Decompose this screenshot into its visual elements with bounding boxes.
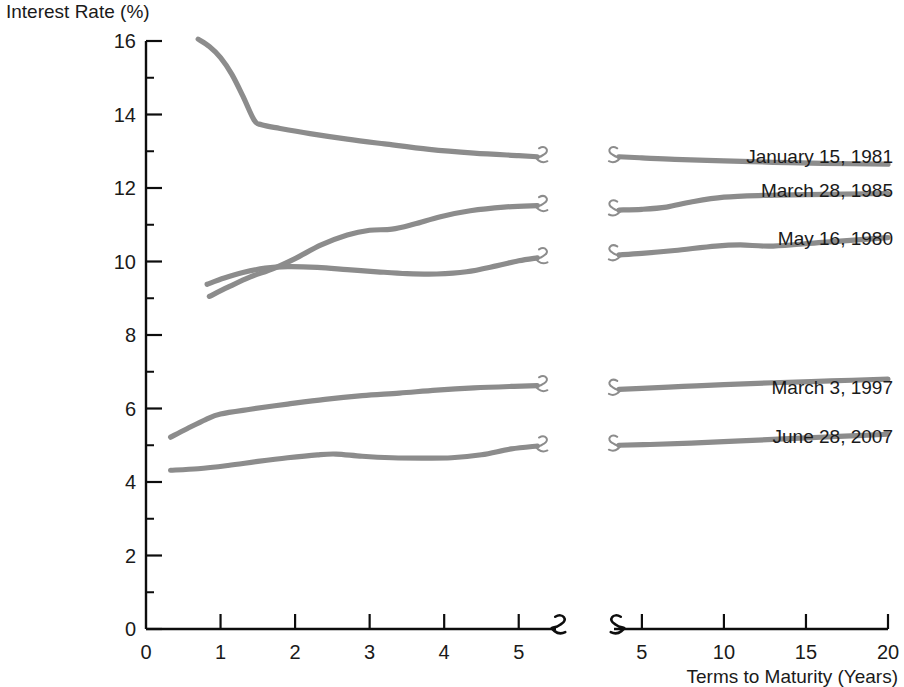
x-tick-label-left-5: 5 bbox=[513, 641, 524, 663]
y-axis-title: Interest Rate (%) bbox=[6, 1, 150, 22]
axis-break-glyph-left bbox=[552, 615, 566, 633]
x-tick-label-right-15: 15 bbox=[795, 641, 817, 663]
axis-break-glyphs bbox=[552, 615, 625, 633]
y-tick-label-14: 14 bbox=[114, 104, 136, 126]
axis-break-glyph-right bbox=[611, 615, 625, 633]
y-tick-label-6: 6 bbox=[125, 398, 136, 420]
x-tick-label-right-5: 5 bbox=[636, 641, 647, 663]
y-tick-label-12: 12 bbox=[114, 177, 136, 199]
series-curve-left-may-16-1980 bbox=[207, 258, 537, 284]
x-tick-label-right-10: 10 bbox=[713, 641, 735, 663]
x-tick-label-right-20: 20 bbox=[877, 641, 899, 663]
x-axis-ticks-left: 012345 bbox=[140, 614, 524, 663]
series-curve-left-march-28-1985 bbox=[209, 206, 537, 297]
chart-canvas: Interest Rate (%) 0246810121416 012345 5… bbox=[0, 0, 904, 687]
series-curve-left-june-28-2007 bbox=[171, 446, 538, 470]
series-curve-left-march-3-1997 bbox=[171, 386, 538, 437]
series-curves bbox=[171, 39, 888, 470]
y-tick-label-2: 2 bbox=[125, 545, 136, 567]
series-curve-left-january-15-1981 bbox=[198, 39, 537, 157]
series-label-may-16-1980: May 16, 1980 bbox=[778, 228, 893, 249]
x-tick-label-left-1: 1 bbox=[215, 641, 226, 663]
x-tick-label-left-4: 4 bbox=[439, 641, 450, 663]
x-axis-title: Terms to Maturity (Years) bbox=[686, 666, 898, 687]
x-axis-ticks-right: 5101520 bbox=[636, 614, 899, 663]
y-axis-ticks: 0246810121416 bbox=[114, 30, 162, 640]
y-tick-label-0: 0 bbox=[125, 618, 136, 640]
x-tick-label-left-3: 3 bbox=[364, 641, 375, 663]
series-label-march-28-1985: March 28, 1985 bbox=[761, 180, 893, 201]
curve-break-glyphs bbox=[536, 147, 620, 451]
y-tick-label-8: 8 bbox=[125, 324, 136, 346]
series-label-january-15-1981: January 15, 1981 bbox=[746, 146, 893, 167]
yield-curve-chart: Interest Rate (%) 0246810121416 012345 5… bbox=[0, 0, 904, 687]
series-label-march-3-1997: March 3, 1997 bbox=[772, 377, 893, 398]
x-tick-label-left-2: 2 bbox=[290, 641, 301, 663]
series-label-june-28-2007: June 28, 2007 bbox=[773, 426, 893, 447]
x-tick-label-left-0: 0 bbox=[140, 641, 151, 663]
y-tick-label-16: 16 bbox=[114, 30, 136, 52]
y-tick-label-10: 10 bbox=[114, 251, 136, 273]
y-tick-label-4: 4 bbox=[125, 471, 136, 493]
series-labels: January 15, 1981March 28, 1985May 16, 19… bbox=[746, 146, 893, 447]
